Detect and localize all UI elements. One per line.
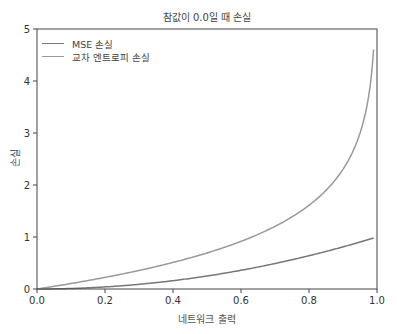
legend-item-mse: MSE 손실 (42, 37, 150, 50)
y-tick-label: 4 (24, 76, 30, 87)
y-tick-label: 3 (24, 128, 30, 139)
y-axis-ticks: 012345 (24, 24, 37, 295)
legend-label-mse: MSE 손실 (72, 37, 113, 51)
x-tick-label: 0.6 (233, 295, 249, 306)
legend-label-cross-entropy: 교차 엔트로피 손실 (72, 50, 150, 64)
y-tick-label: 0 (24, 284, 30, 295)
legend-line-cross-entropy-icon (42, 56, 64, 57)
axes-frame (37, 29, 377, 289)
data-lines (37, 50, 374, 289)
y-tick-label: 5 (24, 24, 30, 35)
legend-item-cross-entropy: 교차 엔트로피 손실 (42, 50, 150, 63)
x-tick-label: 0.2 (97, 295, 113, 306)
legend: MSE 손실 교차 엔트로피 손실 (42, 37, 150, 63)
x-tick-label: 0.8 (301, 295, 317, 306)
legend-line-mse-icon (42, 43, 64, 44)
series-line-1 (37, 50, 374, 289)
x-tick-label: 1.0 (369, 295, 385, 306)
x-axis-ticks: 0.00.20.40.60.81.0 (29, 289, 385, 306)
y-tick-label: 2 (24, 180, 30, 191)
x-tick-label: 0.0 (29, 295, 45, 306)
y-axis-label: 손실 (7, 148, 22, 168)
y-tick-label: 1 (24, 232, 30, 243)
x-tick-label: 0.4 (165, 295, 181, 306)
x-axis-label: 네트워크 출력 (37, 311, 377, 326)
